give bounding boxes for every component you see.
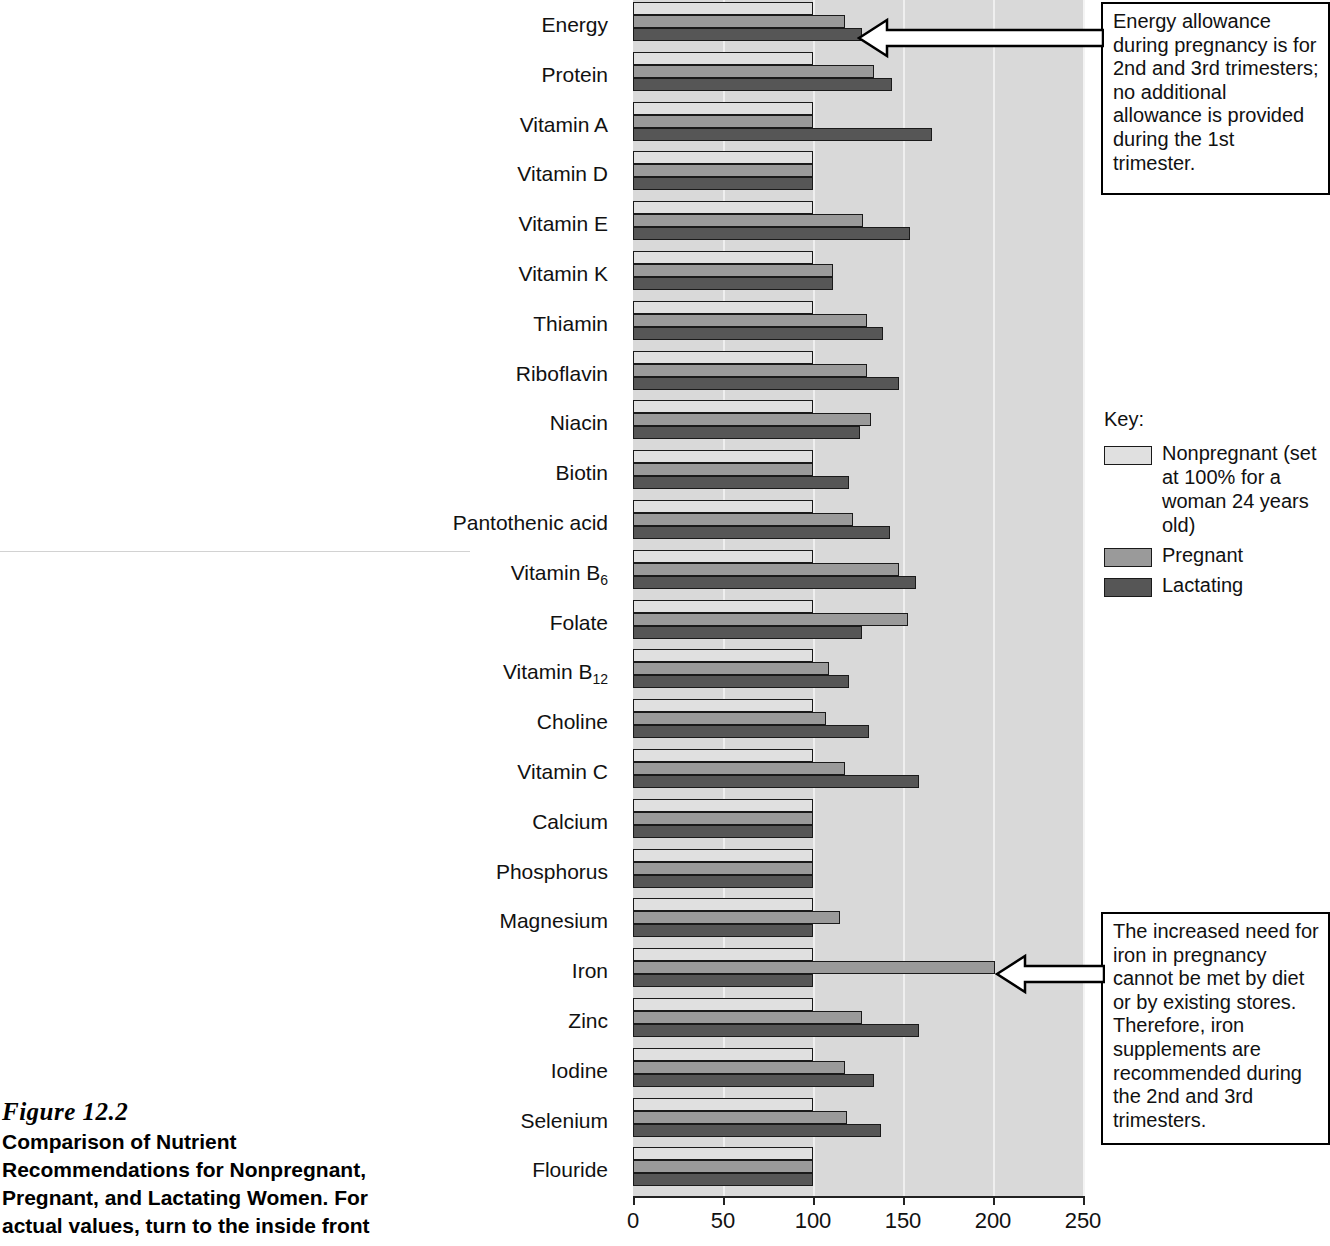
bar-group [633, 1096, 1083, 1146]
legend-label-pregnant: Pregnant [1162, 543, 1243, 567]
bar-nonpregnant [633, 849, 813, 862]
bar-pregnant [633, 413, 871, 426]
category-label: Choline [300, 697, 620, 747]
bar-nonpregnant [633, 400, 813, 413]
category-axis-labels: EnergyProteinVitamin AVitamin DVitamin E… [300, 0, 620, 1195]
bar-nonpregnant [633, 102, 813, 115]
bar-rows [633, 0, 1083, 1195]
x-tick-label-150: 150 [885, 1208, 922, 1234]
bar-nonpregnant [633, 2, 813, 15]
bar-pregnant [633, 463, 813, 476]
x-tick-100 [813, 1196, 815, 1205]
category-label: Phosphorus [300, 847, 620, 897]
bar-group [633, 1145, 1083, 1195]
bar-pregnant [633, 712, 826, 725]
bar-nonpregnant [633, 1098, 813, 1111]
bar-lactating [633, 526, 890, 539]
bar-lactating [633, 675, 849, 688]
bar-nonpregnant [633, 699, 813, 712]
category-label: Vitamin C [300, 747, 620, 797]
bar-pregnant [633, 214, 863, 227]
legend-swatch-pregnant [1104, 548, 1152, 567]
category-label: Folate [300, 598, 620, 648]
bar-nonpregnant [633, 1048, 813, 1061]
category-label: Iodine [300, 1046, 620, 1096]
bar-group [633, 199, 1083, 249]
bar-lactating [633, 924, 813, 937]
bar-pregnant [633, 812, 813, 825]
legend-item-lactating: Lactating [1104, 573, 1319, 597]
bar-pregnant [633, 513, 853, 526]
bar-nonpregnant [633, 898, 813, 911]
category-label: Calcium [300, 797, 620, 847]
bar-group [633, 349, 1083, 399]
category-label: Magnesium [300, 896, 620, 946]
bar-nonpregnant [633, 948, 813, 961]
category-label: Energy [300, 0, 620, 50]
bar-pregnant [633, 364, 867, 377]
x-tick-250 [1083, 1196, 1085, 1205]
value-axis: 050100150200250 [633, 1196, 1093, 1246]
bar-lactating [633, 725, 869, 738]
bar-pregnant [633, 65, 874, 78]
x-tick-0 [633, 1196, 635, 1205]
x-tick-50 [723, 1196, 725, 1205]
bar-pregnant [633, 911, 840, 924]
bar-pregnant [633, 314, 867, 327]
category-label: Vitamin K [300, 249, 620, 299]
category-label: Vitamin A [300, 100, 620, 150]
bar-pregnant [633, 1011, 862, 1024]
bar-lactating [633, 1173, 813, 1186]
callout-iron-arrow [995, 952, 1105, 996]
bar-lactating [633, 974, 813, 987]
chart-legend: Key: Nonpregnant (set at 100% for a woma… [1104, 408, 1319, 603]
bar-nonpregnant [633, 1147, 813, 1160]
callout-iron: The increased need for iron in pregnancy… [1101, 912, 1330, 1145]
bar-nonpregnant [633, 550, 813, 563]
bar-pregnant [633, 613, 908, 626]
category-label: Vitamin E [300, 199, 620, 249]
bar-nonpregnant [633, 301, 813, 314]
figure-caption-text: Comparison of Nutrient Recommendations f… [2, 1128, 422, 1240]
bar-nonpregnant [633, 600, 813, 613]
bar-group [633, 797, 1083, 847]
bar-lactating [633, 78, 892, 91]
legend-label-nonpregnant: Nonpregnant (set at 100% for a woman 24 … [1162, 441, 1319, 537]
x-tick-200 [993, 1196, 995, 1205]
legend-swatch-nonpregnant [1104, 446, 1152, 465]
bar-lactating [633, 426, 860, 439]
bar-pregnant [633, 1061, 845, 1074]
bar-pregnant [633, 115, 813, 128]
x-tick-150 [903, 1196, 905, 1205]
category-label: Riboflavin [300, 349, 620, 399]
legend-item-pregnant: Pregnant [1104, 543, 1319, 567]
category-label: Thiamin [300, 299, 620, 349]
bar-group [633, 448, 1083, 498]
bar-nonpregnant [633, 201, 813, 214]
bar-nonpregnant [633, 450, 813, 463]
bar-lactating [633, 825, 813, 838]
bar-nonpregnant [633, 52, 813, 65]
bar-group [633, 299, 1083, 349]
bar-lactating [633, 476, 849, 489]
bar-group [633, 697, 1083, 747]
bar-lactating [633, 327, 883, 340]
bar-lactating [633, 1124, 881, 1137]
bar-nonpregnant [633, 351, 813, 364]
bar-pregnant [633, 862, 813, 875]
category-label: Vitamin B6 [300, 548, 620, 598]
bar-nonpregnant [633, 749, 813, 762]
bar-lactating [633, 128, 932, 141]
x-tick-label-0: 0 [627, 1208, 639, 1234]
bar-group [633, 1046, 1083, 1096]
bar-group [633, 598, 1083, 648]
bar-group [633, 847, 1083, 897]
bar-lactating [633, 28, 862, 41]
bar-group [633, 100, 1083, 150]
bar-group [633, 548, 1083, 598]
category-label: Pantothenic acid [300, 498, 620, 548]
bar-nonpregnant [633, 799, 813, 812]
bar-pregnant [633, 762, 845, 775]
bar-group [633, 896, 1083, 946]
category-label: Zinc [300, 996, 620, 1046]
